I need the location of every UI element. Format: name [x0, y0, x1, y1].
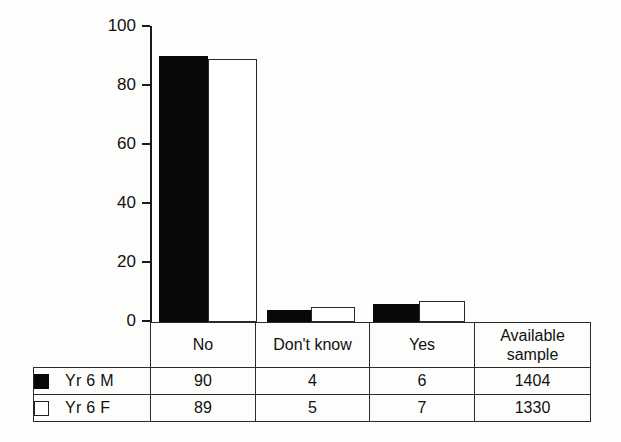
cell-yr6m-yes: 6	[370, 368, 475, 395]
y-tick-label-text: 60	[96, 135, 136, 152]
data-table: No Don't know Yes Available sample Yr 6 …	[33, 322, 591, 422]
y-tick-label-text: 40	[96, 194, 136, 211]
legend-label-yr6m: Yr 6 M	[65, 372, 114, 390]
cell-yr6f-yes: 7	[370, 395, 475, 422]
bar-yr6f-yes	[419, 301, 465, 322]
table-header-blank	[34, 323, 151, 368]
legend-label-yr6f: Yr 6 F	[65, 399, 110, 417]
bar-yr6f-dontknow	[311, 307, 355, 322]
table-header-row: No Don't know Yes Available sample	[34, 323, 591, 368]
bar-yr6m-yes	[373, 304, 419, 322]
plot-area	[150, 26, 590, 322]
cell-yr6f-no: 89	[151, 395, 256, 422]
bar-yr6f-no	[208, 59, 257, 322]
table-row: Yr 6 M 90 4 6 1404	[34, 368, 591, 395]
filled-square-icon	[34, 374, 49, 389]
available-sample-line2: sample	[475, 345, 590, 364]
bar-yr6m-dontknow	[267, 310, 311, 322]
legend-cell-yr6f: Yr 6 F	[34, 395, 151, 422]
y-tick-label-text: 80	[96, 76, 136, 93]
cell-yr6m-dont-know: 4	[256, 368, 370, 395]
bar-yr6m-no	[159, 56, 208, 322]
y-tick-mark-80	[142, 84, 150, 86]
table-header-no: No	[151, 323, 256, 368]
table-header-yes: Yes	[370, 323, 475, 368]
y-tick-mark-60	[142, 143, 150, 145]
table-row: Yr 6 F 89 5 7 1330	[34, 395, 591, 422]
hollow-square-icon	[34, 401, 49, 416]
cell-yr6m-no: 90	[151, 368, 256, 395]
y-tick-label-text: 20	[96, 253, 136, 270]
y-tick-mark-20	[142, 261, 150, 263]
table-header-available-sample: Available sample	[475, 323, 591, 368]
y-tick-label-text: 100	[96, 17, 136, 34]
cell-yr6f-available-sample: 1330	[475, 395, 591, 422]
y-tick-mark-100	[142, 25, 150, 27]
legend-data-table: No Don't know Yes Available sample Yr 6 …	[33, 322, 590, 418]
cell-yr6f-dont-know: 5	[256, 395, 370, 422]
legend-cell-yr6m: Yr 6 M	[34, 368, 151, 395]
table-header-dont-know: Don't know	[256, 323, 370, 368]
chart-figure: 100 80 60 40 20 0	[0, 0, 621, 442]
cell-yr6m-available-sample: 1404	[475, 368, 591, 395]
available-sample-line1: Available	[475, 326, 590, 345]
y-tick-mark-40	[142, 202, 150, 204]
